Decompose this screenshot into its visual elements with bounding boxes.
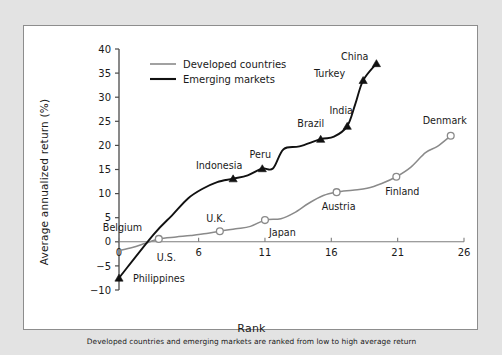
data-point-label: India bbox=[329, 105, 353, 116]
data-point-marker-triangle bbox=[359, 77, 367, 84]
chart-panel: Average annualized return (%) −10−505101… bbox=[23, 25, 478, 330]
data-point-label: Japan bbox=[268, 227, 296, 238]
data-point-marker-circle bbox=[393, 173, 400, 180]
data-point-label: Finland bbox=[385, 186, 419, 197]
y-axis-tick-label: 0 bbox=[105, 236, 111, 247]
data-point-label: Turkey bbox=[313, 68, 346, 79]
chart-plot: −10−505101520253035400611162126Philippin… bbox=[24, 26, 479, 331]
data-point-marker-circle bbox=[216, 228, 223, 235]
y-axis-tick-label: 10 bbox=[98, 188, 111, 199]
series-line-emerging-markets bbox=[119, 63, 376, 277]
data-point-label: China bbox=[341, 51, 368, 62]
x-axis-tick-label: 6 bbox=[195, 247, 201, 258]
y-axis-tick-label: 25 bbox=[98, 116, 111, 127]
y-axis-tick-label: 40 bbox=[98, 44, 111, 55]
y-axis-tick-label: 15 bbox=[98, 164, 111, 175]
data-point-label: U.K. bbox=[206, 213, 225, 224]
data-point-marker-circle bbox=[155, 236, 162, 243]
data-point-label: Peru bbox=[250, 149, 271, 160]
x-axis-tick-label: 11 bbox=[259, 247, 272, 258]
data-point-marker-circle bbox=[333, 189, 340, 196]
data-point-label: Belgium bbox=[103, 222, 142, 233]
data-point-marker-circle bbox=[447, 132, 454, 139]
y-axis-tick-label: 30 bbox=[98, 92, 111, 103]
x-axis-tick-label: 0 bbox=[116, 247, 122, 258]
data-point-label: Brazil bbox=[297, 118, 324, 129]
y-axis-tick-label: −10 bbox=[90, 285, 111, 296]
y-axis-tick-label: 35 bbox=[98, 68, 111, 79]
data-point-label: Indonesia bbox=[196, 160, 242, 171]
data-point-marker-triangle bbox=[372, 60, 380, 67]
data-point-label: Denmark bbox=[423, 115, 468, 126]
x-axis-title: Rank bbox=[24, 322, 479, 335]
figure-background: Average annualized return (%) −10−505101… bbox=[0, 0, 502, 355]
data-point-label: Austria bbox=[322, 201, 356, 212]
y-axis-tick-label: −5 bbox=[96, 261, 111, 272]
data-point-marker-triangle bbox=[343, 122, 351, 129]
legend-label-0: Developed countries bbox=[183, 59, 286, 70]
data-point-marker-circle bbox=[262, 217, 269, 224]
data-point-label: Philippines bbox=[133, 273, 185, 284]
chart-subtitle: Developed countries and emerging markets… bbox=[24, 337, 479, 346]
y-axis-tick-label: 20 bbox=[98, 140, 111, 151]
x-axis-tick-label: 16 bbox=[325, 247, 338, 258]
x-axis-tick-label: 26 bbox=[458, 247, 471, 258]
data-point-label: U.S. bbox=[157, 252, 176, 263]
x-axis-tick-label: 21 bbox=[391, 247, 404, 258]
legend-label-1: Emerging markets bbox=[183, 74, 275, 85]
